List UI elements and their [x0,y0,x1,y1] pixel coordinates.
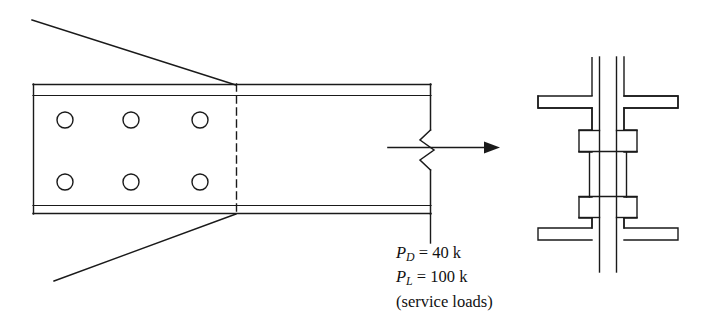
service-loads-note: (service loads) [396,292,493,312]
bolt-hole [57,174,73,190]
dead-load-equals: = [415,243,433,262]
web-splice-plates [590,152,627,197]
top-splice-plate-right [624,130,637,152]
bolt-hole [192,112,208,128]
top-flange-splice-plate [579,130,637,152]
beam-break-symbol [420,84,434,214]
bolt-hole [123,174,139,190]
bolt-hole [192,174,208,190]
dead-load-annotation: PD = 40 k [396,243,493,267]
top-flange [538,57,678,130]
leader-lines [32,20,236,281]
bolt-hole [123,112,139,128]
live-load-value: 100 k [430,267,467,286]
live-load-symbol: P [396,267,406,286]
dead-load-value: 40 k [432,243,461,262]
leader-line-top [32,20,236,85]
bottom-splice-plate-left [579,197,592,218]
break-zigzag [420,130,434,170]
load-annotation-block: PD = 40 k PL = 100 k (service loads) [396,243,493,312]
top-flange-left-outline [538,96,592,108]
splice-connection-drawing [0,0,707,336]
bolt-hole-group [57,112,208,190]
load-arrow-head [484,142,500,154]
leader-line-bottom [54,214,236,281]
applied-load-arrow [388,142,500,154]
top-flange-right-outline [624,96,678,108]
bottom-flange-splice-plate [579,197,637,219]
dead-load-subscript: D [406,250,415,264]
bottom-flange-left-outline [538,218,592,240]
top-splice-plate-left [579,130,592,152]
cross-section-view [538,57,678,272]
live-load-annotation: PL = 100 k [396,267,493,291]
bolt-hole [57,112,73,128]
live-load-equals: = [413,267,431,286]
dead-load-symbol: P [396,243,406,262]
bottom-flange-right-outline [624,218,678,240]
live-load-subscript: L [406,275,413,289]
beam-elevation [33,85,431,214]
bottom-splice-plate-right [624,197,637,218]
engineering-figure: PD = 40 k PL = 100 k (service loads) [0,0,707,336]
